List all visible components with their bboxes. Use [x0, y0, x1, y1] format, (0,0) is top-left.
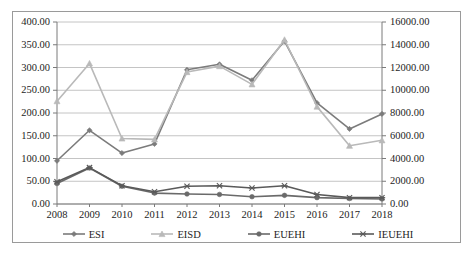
y-axis-left-tick-label: 0.00 — [13, 198, 50, 209]
data-point-marker — [360, 231, 366, 236]
chart-legend: ESIEISDEUEHIIEUEHI — [13, 225, 462, 243]
data-point-marker — [216, 183, 222, 188]
x-axis-tick-label: 2013 — [203, 209, 237, 220]
x-axis-tick-label: 2016 — [300, 209, 334, 220]
y-axis-left-tick-label: 150.00 — [13, 130, 50, 141]
x-axis-tick-label: 2017 — [333, 209, 367, 220]
data-point-marker — [184, 184, 190, 189]
data-point-marker — [71, 231, 76, 236]
y-axis-left-tick-label: 250.00 — [13, 84, 50, 95]
y-axis-left-tick-label: 50.00 — [13, 175, 50, 186]
data-point-marker — [379, 111, 384, 116]
x-axis-tick-label: 2009 — [73, 209, 107, 220]
x-axis-tick-label: 2015 — [268, 209, 302, 220]
diamond-marker — [62, 229, 86, 239]
y-axis-left-tick-label: 100.00 — [13, 153, 50, 164]
legend-label: ESI — [89, 229, 105, 240]
x-axis-tick-label: 2010 — [105, 209, 139, 220]
data-point-marker — [282, 37, 288, 43]
x-axis-tick-label: 2014 — [235, 209, 269, 220]
legend-item-ieuehi[interactable]: IEUEHI — [351, 229, 413, 240]
y-axis-right-tick-label: 10000.00 — [390, 84, 429, 95]
series-line-eisd — [57, 40, 382, 146]
y-axis-right-tick-label: 14000.00 — [390, 39, 429, 50]
y-axis-left-tick-label: 200.00 — [13, 107, 50, 118]
data-point-marker — [249, 185, 255, 190]
x-axis-tick-label: 2012 — [170, 209, 204, 220]
legend-label: IEUEHI — [378, 229, 413, 240]
y-axis-right-tick-label: 6000.00 — [390, 130, 424, 141]
chart-screenshot: 0.0050.00100.00150.00200.00250.00300.003… — [0, 0, 473, 256]
data-point-marker — [87, 60, 93, 66]
x-axis-tick-label: 2018 — [365, 209, 399, 220]
legend-label: EISD — [177, 229, 200, 240]
legend-item-esi[interactable]: ESI — [62, 229, 105, 240]
y-axis-right-tick-label: 12000.00 — [390, 62, 429, 73]
y-axis-left-tick-label: 300.00 — [13, 62, 50, 73]
x-axis-tick-label: 2008 — [40, 209, 74, 220]
y-axis-right-tick-label: 16000.00 — [390, 16, 429, 27]
data-point-marker — [185, 192, 190, 197]
y-axis-left-tick-label: 400.00 — [13, 16, 50, 27]
x-axis-tick-label: 2011 — [138, 209, 172, 220]
y-axis-right-tick-label: 2000.00 — [390, 175, 424, 186]
data-point-marker — [217, 192, 222, 197]
y-axis-right-tick-label: 4000.00 — [390, 153, 424, 164]
chart-frame: 0.0050.00100.00150.00200.00250.00300.003… — [12, 11, 461, 243]
data-point-marker — [256, 232, 261, 237]
y-axis-right-tick-label: 8000.00 — [390, 107, 424, 118]
y-axis-right-tick-label: 0.00 — [390, 198, 408, 209]
legend-label: EUEHI — [274, 229, 306, 240]
legend-item-euehi[interactable]: EUEHI — [247, 229, 306, 240]
data-point-marker — [250, 194, 255, 199]
cross-marker — [351, 229, 375, 239]
triangle-marker — [150, 229, 174, 239]
data-point-marker — [282, 193, 287, 198]
circle-marker — [247, 229, 271, 239]
data-point-marker — [281, 183, 287, 188]
legend-item-eisd[interactable]: EISD — [150, 229, 200, 240]
y-axis-left-tick-label: 350.00 — [13, 39, 50, 50]
